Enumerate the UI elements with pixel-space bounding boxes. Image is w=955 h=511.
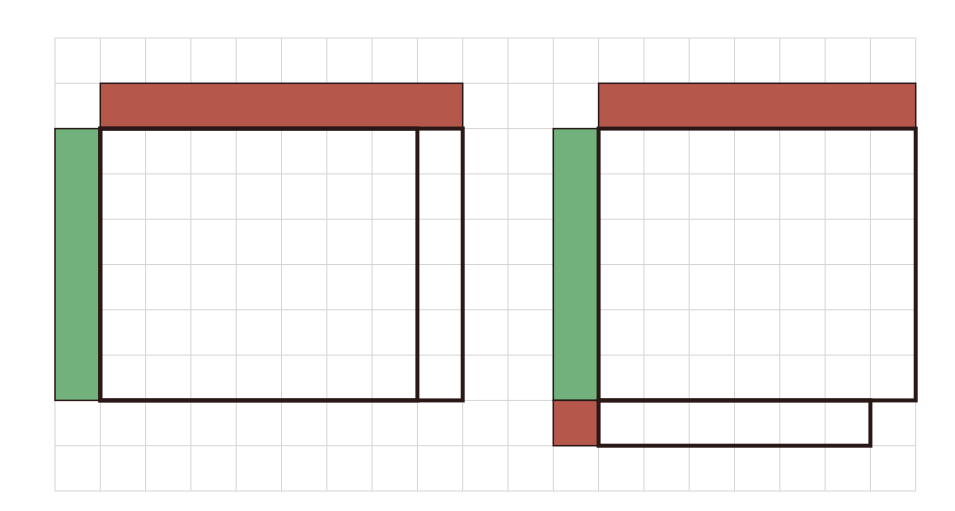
area-model-diagram xyxy=(0,0,955,511)
green-bar xyxy=(55,129,100,401)
red-bar xyxy=(599,83,916,128)
red-square xyxy=(553,400,598,445)
red-bar xyxy=(100,83,462,128)
green-bar xyxy=(553,129,598,401)
left-diagram xyxy=(55,83,463,400)
